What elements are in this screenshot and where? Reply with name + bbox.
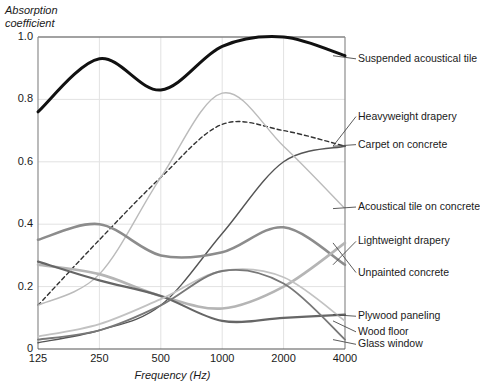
x-tick-label: 1000 [197,352,247,364]
series-line-2 [38,146,345,343]
series-label-6: Plywood paneling [358,309,440,321]
series-label-4: Lightweight drapery [358,234,450,246]
y-tick-label: 0.4 [3,217,33,229]
series-line-7 [38,269,345,336]
series-label-2: Carpet on concrete [358,138,447,150]
x-tick-label: 4000 [320,352,370,364]
x-tick-label: 125 [13,352,63,364]
series-label-0: Suspended acoustical tile [358,52,477,64]
series-label-7: Wood floor [358,325,409,337]
x-tick-label: 2000 [259,352,309,364]
series-label-5: Unpainted concrete [358,266,449,278]
series-line-4 [38,224,345,265]
series-label-1: Heavyweight drapery [358,110,457,122]
series-label-8: Glass window [358,337,423,349]
y-tick-label: 1.0 [3,30,33,42]
x-tick-label: 250 [74,352,124,364]
x-tick-label: 500 [136,352,186,364]
series-label-3: Acoustical tile on concrete [358,200,480,212]
series-line-0 [38,37,345,112]
y-tick-label: 0.8 [3,92,33,104]
y-tick-label: 0.2 [3,280,33,292]
y-tick-label: 0.6 [3,155,33,167]
